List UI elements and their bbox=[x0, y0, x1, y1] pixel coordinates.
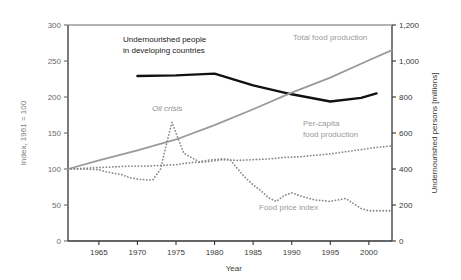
y-axis-tick-label-left: 0 bbox=[57, 237, 62, 246]
y-axis-tick-label-left: 200 bbox=[48, 93, 62, 102]
y-axis-tick-label-right: 200 bbox=[399, 201, 413, 210]
annotation-line: food production bbox=[303, 130, 358, 139]
y-axis-tick-label-right: 1,200 bbox=[399, 21, 420, 30]
annotation-line: Per-capita bbox=[303, 119, 340, 128]
y-axis-tick-label-right: 400 bbox=[399, 165, 413, 174]
x-axis-tick-label: 1990 bbox=[283, 248, 301, 257]
food-production-undernourishment-chart: 05010015020025030002004006008001,0001,20… bbox=[0, 0, 461, 280]
y-axis-tick-label-left: 300 bbox=[48, 21, 62, 30]
annotation-oil-crisis-label: Oil crisis bbox=[152, 104, 182, 113]
y-axis-tick-label-left: 100 bbox=[48, 165, 62, 174]
y-axis-tick-label-right: 800 bbox=[399, 93, 413, 102]
annotation-line: Oil crisis bbox=[152, 104, 182, 113]
y-axis-tick-label-left: 250 bbox=[48, 57, 62, 66]
annotation-food-price-index-label: Food price index bbox=[259, 203, 318, 212]
annotation-line: Total food production bbox=[293, 33, 367, 42]
x-axis-tick-label: 1965 bbox=[90, 248, 108, 257]
x-axis-tick-label: 1975 bbox=[167, 248, 185, 257]
x-axis-tick-label: 2000 bbox=[360, 248, 378, 257]
x-axis-tick-label: 1995 bbox=[321, 248, 339, 257]
annotation-line: Undernourished people bbox=[123, 35, 207, 44]
x-axis-title: Year bbox=[226, 264, 243, 273]
y-axis-tick-label-right: 1,000 bbox=[399, 57, 420, 66]
annotation-line: in developing countries bbox=[123, 46, 205, 55]
x-axis-tick-label: 1980 bbox=[206, 248, 224, 257]
y-axis-tick-label-left: 50 bbox=[52, 201, 61, 210]
annotation-line: Food price index bbox=[259, 203, 318, 212]
y-axis-tick-label-right: 0 bbox=[399, 237, 404, 246]
annotation-total-food-production-label: Total food production bbox=[293, 33, 367, 42]
chart-figure: 05010015020025030002004006008001,0001,20… bbox=[0, 0, 461, 280]
x-axis-tick-label: 1970 bbox=[129, 248, 147, 257]
y-axis-title-left: Index, 1961 = 100 bbox=[19, 100, 28, 165]
y-axis-title-right: Undernourished persons [millions] bbox=[430, 73, 439, 194]
y-axis-tick-label-right: 600 bbox=[399, 129, 413, 138]
x-axis-tick-label: 1985 bbox=[244, 248, 262, 257]
y-axis-tick-label-left: 150 bbox=[48, 129, 62, 138]
